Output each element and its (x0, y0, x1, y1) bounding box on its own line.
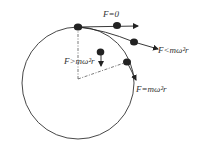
path-f-less (78, 27, 158, 49)
ball-top (74, 23, 82, 30)
ball-f-greater (97, 48, 105, 55)
tangent-path-f-zero (78, 26, 138, 27)
ball-f-equal (123, 58, 131, 65)
label-f-equal: F=mω²r (135, 84, 167, 94)
circular-motion-diagram: F=0 F<mω²r F>mω²r F=mω²r (0, 0, 205, 151)
ball-f-zero (113, 22, 121, 29)
ball-f-less (130, 38, 138, 45)
label-f-less: F<mω²r (157, 45, 189, 55)
label-f-greater: F>mω²r (63, 56, 95, 66)
label-f-zero: F=0 (102, 9, 120, 19)
